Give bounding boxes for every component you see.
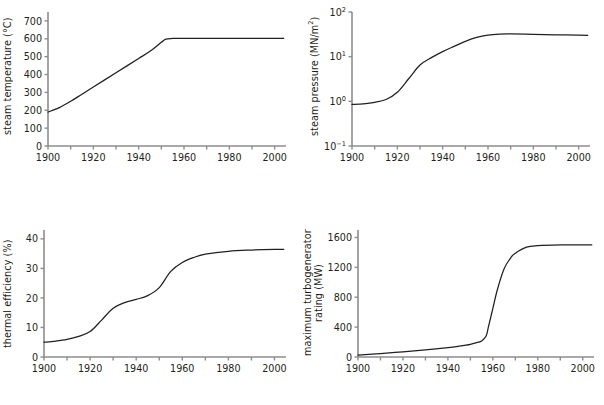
figure-caption [0,395,604,405]
panel-steam-temperature: steam temperature (°C) 19001920194019601… [0,0,300,175]
svg-text:400: 400 [334,322,352,333]
panel-steam-pressure: steam pressure (MN/m2) 19001920194019601… [304,0,604,175]
panel-turbogenerator-rating: maximum turbogenerator rating (MW) 19001… [304,212,604,392]
svg-text:1940: 1940 [126,152,150,163]
svg-text:1980: 1980 [217,152,241,163]
plot-area-turbogenerator-rating: 190019201940196019802000040080012001600 [304,212,604,392]
svg-text:1980: 1980 [216,363,240,374]
svg-text:700: 700 [24,16,42,27]
svg-text:1600: 1600 [328,232,352,243]
svg-text:200: 200 [24,105,42,116]
svg-text:100: 100 [330,95,346,107]
svg-text:1960: 1960 [170,363,194,374]
data-curve-turbogenerator-rating [358,245,592,355]
svg-text:1940: 1940 [436,363,460,374]
svg-text:1920: 1920 [385,152,409,163]
svg-text:2000: 2000 [262,363,286,374]
y-axis-label-thermal-efficiency: thermal efficiency (%) [2,224,13,364]
svg-text:100: 100 [24,123,42,134]
svg-text:1940: 1940 [124,363,148,374]
plot-area-thermal-efficiency: 190019201940196019802000010203040 [0,212,300,392]
svg-text:1200: 1200 [328,262,352,273]
svg-text:1900: 1900 [36,152,60,163]
svg-text:101: 101 [330,50,346,62]
svg-text:1940: 1940 [430,152,454,163]
y-axis-label-line-2: rating (MW) [313,264,324,322]
y-axis-label-line-1: maximum turbogenerator [302,230,313,357]
y-axis-label-steam-pressure: steam pressure (MN/m2) [306,4,320,149]
svg-text:1960: 1960 [476,152,500,163]
svg-text:1980: 1980 [526,363,550,374]
svg-text:400: 400 [24,69,42,80]
svg-text:500: 500 [24,51,42,62]
svg-text:2000: 2000 [262,152,286,163]
svg-text:0: 0 [346,352,352,363]
svg-text:20: 20 [26,293,38,304]
svg-text:1960: 1960 [172,152,196,163]
plot-area-steam-temperature: 1900192019401960198020000100200300400500… [0,0,300,175]
svg-text:1980: 1980 [521,152,545,163]
y-axis-label-steam-temperature: steam temperature (°C) [2,6,13,146]
svg-text:1960: 1960 [481,363,505,374]
y-axis-label-turbogenerator-rating: maximum turbogenerator rating (MW) [302,218,328,368]
four-panel-figure: steam temperature (°C) 19001920194019601… [0,0,604,405]
plot-area-steam-pressure: 19001920194019601980200010−1100101102 [304,0,604,175]
svg-text:10−1: 10−1 [324,140,346,152]
svg-text:1920: 1920 [78,363,102,374]
svg-text:10: 10 [26,322,38,333]
data-curve-steam-temperature [48,38,284,112]
svg-text:600: 600 [24,33,42,44]
svg-text:1900: 1900 [346,363,370,374]
panel-thermal-efficiency: thermal efficiency (%) 19001920194019601… [0,212,300,392]
svg-text:1920: 1920 [391,363,415,374]
svg-text:30: 30 [26,263,38,274]
svg-text:40: 40 [26,233,38,244]
svg-text:1920: 1920 [81,152,105,163]
svg-text:2000: 2000 [566,152,590,163]
svg-text:800: 800 [334,292,352,303]
svg-text:102: 102 [330,6,346,18]
data-curve-steam-pressure [352,34,588,105]
svg-text:1900: 1900 [32,363,56,374]
data-curve-thermal-efficiency [44,249,284,342]
svg-text:1900: 1900 [340,152,364,163]
svg-text:2000: 2000 [571,363,595,374]
svg-text:300: 300 [24,87,42,98]
svg-text:0: 0 [32,352,38,363]
svg-text:0: 0 [36,141,42,152]
